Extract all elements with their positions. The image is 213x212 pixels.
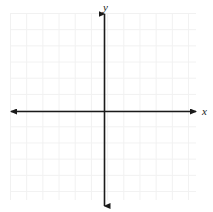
coordinate-plane-figure: y x	[0, 0, 213, 212]
y-axis-label: y	[103, 2, 108, 13]
x-axis-label: x	[202, 106, 207, 117]
axes-layer	[0, 0, 213, 212]
